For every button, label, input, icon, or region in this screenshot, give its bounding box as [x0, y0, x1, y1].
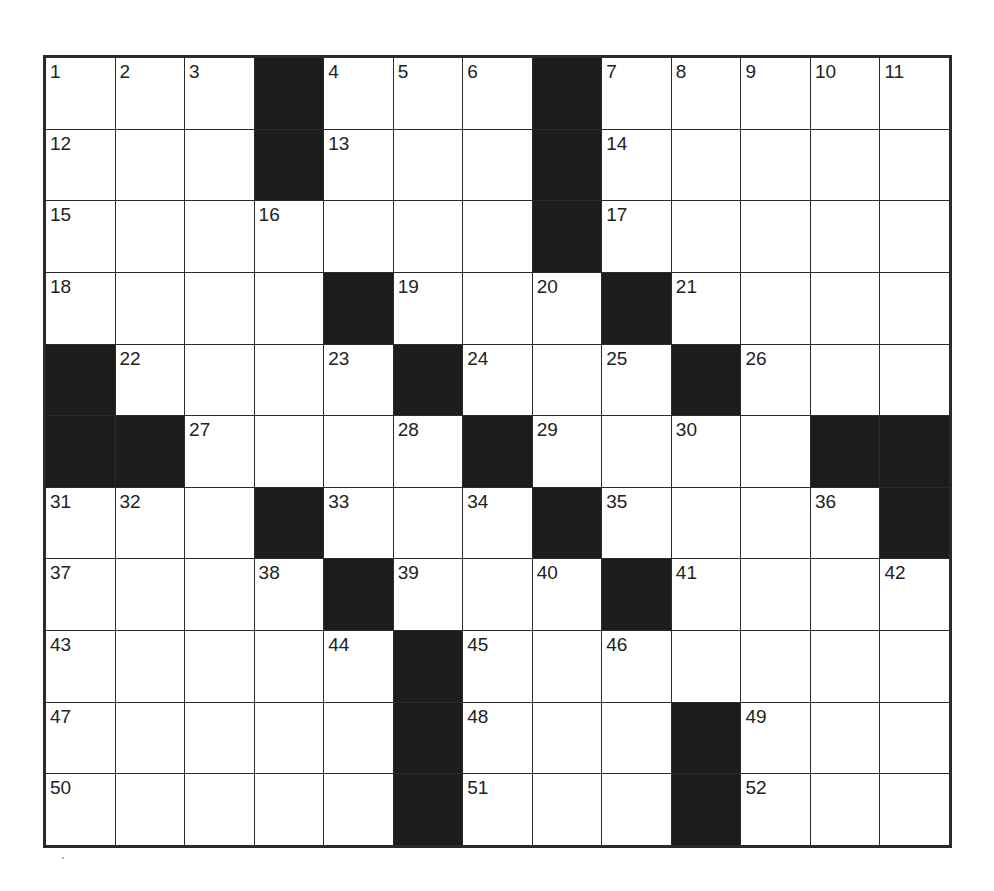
crossword-cell[interactable]: 17: [602, 201, 671, 272]
crossword-cell[interactable]: 26: [741, 345, 810, 416]
crossword-cell[interactable]: [255, 345, 324, 416]
crossword-cell[interactable]: 40: [533, 559, 602, 630]
crossword-cell[interactable]: [185, 631, 254, 702]
crossword-cell[interactable]: [880, 130, 949, 201]
crossword-cell[interactable]: [672, 130, 741, 201]
crossword-cell[interactable]: [463, 130, 532, 201]
crossword-cell[interactable]: [602, 703, 671, 774]
crossword-cell[interactable]: [255, 273, 324, 344]
crossword-cell[interactable]: 36: [811, 488, 880, 559]
crossword-cell[interactable]: [811, 345, 880, 416]
crossword-cell[interactable]: [741, 488, 810, 559]
crossword-cell[interactable]: 43: [46, 631, 115, 702]
crossword-cell[interactable]: 31: [46, 488, 115, 559]
crossword-cell[interactable]: [463, 201, 532, 272]
crossword-cell[interactable]: 12: [46, 130, 115, 201]
crossword-cell[interactable]: [116, 631, 185, 702]
crossword-cell[interactable]: 42: [880, 559, 949, 630]
crossword-cell[interactable]: 5: [394, 58, 463, 129]
crossword-cell[interactable]: 30: [672, 416, 741, 487]
crossword-cell[interactable]: 27: [185, 416, 254, 487]
crossword-cell[interactable]: [185, 703, 254, 774]
crossword-cell[interactable]: [533, 345, 602, 416]
crossword-cell[interactable]: 32: [116, 488, 185, 559]
crossword-cell[interactable]: 41: [672, 559, 741, 630]
crossword-cell[interactable]: [533, 774, 602, 845]
crossword-cell[interactable]: [880, 631, 949, 702]
crossword-cell[interactable]: 52: [741, 774, 810, 845]
crossword-cell[interactable]: [185, 774, 254, 845]
crossword-cell[interactable]: [880, 345, 949, 416]
crossword-cell[interactable]: 16: [255, 201, 324, 272]
crossword-cell[interactable]: 22: [116, 345, 185, 416]
crossword-cell[interactable]: 7: [602, 58, 671, 129]
crossword-cell[interactable]: [255, 416, 324, 487]
crossword-cell[interactable]: 10: [811, 58, 880, 129]
crossword-cell[interactable]: [602, 416, 671, 487]
crossword-cell[interactable]: [741, 130, 810, 201]
crossword-cell[interactable]: [811, 703, 880, 774]
crossword-cell[interactable]: [463, 559, 532, 630]
crossword-cell[interactable]: [394, 201, 463, 272]
crossword-cell[interactable]: 8: [672, 58, 741, 129]
crossword-cell[interactable]: [741, 201, 810, 272]
crossword-cell[interactable]: 3: [185, 58, 254, 129]
crossword-cell[interactable]: [185, 130, 254, 201]
crossword-cell[interactable]: 34: [463, 488, 532, 559]
crossword-cell[interactable]: [116, 703, 185, 774]
crossword-cell[interactable]: [394, 130, 463, 201]
crossword-cell[interactable]: 51: [463, 774, 532, 845]
crossword-cell[interactable]: 35: [602, 488, 671, 559]
crossword-cell[interactable]: 47: [46, 703, 115, 774]
crossword-cell[interactable]: [880, 201, 949, 272]
crossword-cell[interactable]: 14: [602, 130, 671, 201]
crossword-cell[interactable]: [741, 559, 810, 630]
crossword-cell[interactable]: 9: [741, 58, 810, 129]
crossword-cell[interactable]: [116, 130, 185, 201]
crossword-cell[interactable]: 21: [672, 273, 741, 344]
crossword-cell[interactable]: [324, 416, 393, 487]
crossword-cell[interactable]: 19: [394, 273, 463, 344]
crossword-cell[interactable]: 2: [116, 58, 185, 129]
crossword-cell[interactable]: 29: [533, 416, 602, 487]
crossword-cell[interactable]: [811, 130, 880, 201]
crossword-cell[interactable]: 39: [394, 559, 463, 630]
crossword-cell[interactable]: 48: [463, 703, 532, 774]
crossword-cell[interactable]: [672, 488, 741, 559]
crossword-cell[interactable]: [185, 488, 254, 559]
crossword-cell[interactable]: 23: [324, 345, 393, 416]
crossword-cell[interactable]: [533, 631, 602, 702]
crossword-cell[interactable]: [185, 345, 254, 416]
crossword-cell[interactable]: 50: [46, 774, 115, 845]
crossword-cell[interactable]: 11: [880, 58, 949, 129]
crossword-cell[interactable]: 37: [46, 559, 115, 630]
crossword-cell[interactable]: [741, 273, 810, 344]
crossword-cell[interactable]: 33: [324, 488, 393, 559]
crossword-cell[interactable]: [741, 631, 810, 702]
crossword-cell[interactable]: [811, 201, 880, 272]
crossword-cell[interactable]: 13: [324, 130, 393, 201]
crossword-cell[interactable]: 1: [46, 58, 115, 129]
crossword-cell[interactable]: [324, 201, 393, 272]
crossword-cell[interactable]: 46: [602, 631, 671, 702]
crossword-cell[interactable]: 28: [394, 416, 463, 487]
crossword-cell[interactable]: [741, 416, 810, 487]
crossword-cell[interactable]: 38: [255, 559, 324, 630]
crossword-cell[interactable]: 24: [463, 345, 532, 416]
crossword-cell[interactable]: [116, 774, 185, 845]
crossword-cell[interactable]: 49: [741, 703, 810, 774]
crossword-cell[interactable]: [185, 201, 254, 272]
crossword-cell[interactable]: 4: [324, 58, 393, 129]
crossword-cell[interactable]: [672, 631, 741, 702]
crossword-cell[interactable]: [324, 703, 393, 774]
crossword-cell[interactable]: [255, 703, 324, 774]
crossword-cell[interactable]: [811, 631, 880, 702]
crossword-cell[interactable]: [811, 559, 880, 630]
crossword-cell[interactable]: [324, 774, 393, 845]
crossword-cell[interactable]: [602, 774, 671, 845]
crossword-cell[interactable]: [880, 273, 949, 344]
crossword-cell[interactable]: [880, 774, 949, 845]
crossword-cell[interactable]: 6: [463, 58, 532, 129]
crossword-cell[interactable]: [116, 559, 185, 630]
crossword-cell[interactable]: [255, 774, 324, 845]
